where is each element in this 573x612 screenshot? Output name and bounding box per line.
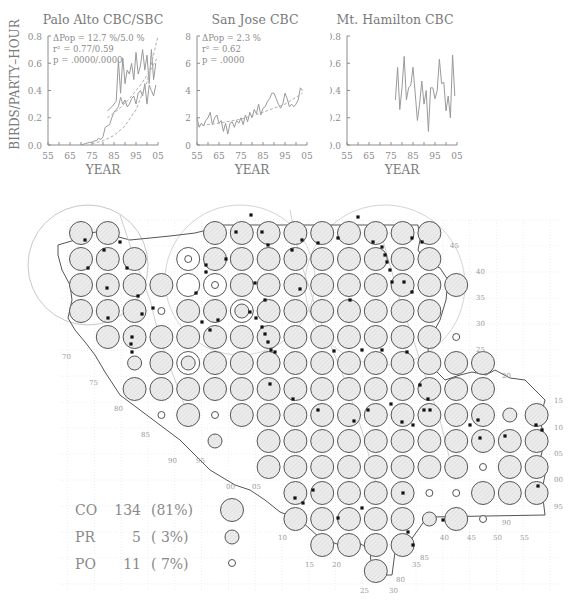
grid-label: 20 [332,561,341,569]
confirmed-circle [204,300,227,323]
confirmed-circle [230,378,253,401]
confirmed-circle [391,534,414,557]
legend-probable-symbol [225,530,239,544]
x-tick-label: 55 [42,151,54,161]
possible-circle [453,334,460,341]
record-dot [194,291,197,294]
confirmed-circle [70,222,93,245]
confirmed-circle [364,482,387,505]
record-dot [410,236,413,239]
legend-code: PR [75,529,113,545]
confirmed-circle [123,378,146,401]
record-dot [402,280,405,283]
possible-circle [480,464,487,471]
possible-circle [480,516,487,523]
record-dot [263,298,266,301]
confirmed-circle [445,404,468,427]
record-dot [86,266,89,269]
distribution-map: 7075808590950005101520253080358540455090… [0,195,573,612]
grid-label: 25 [476,346,485,354]
confirmed-circle [204,222,227,245]
confirmed-circle [123,300,146,323]
confirmed-circle [204,378,227,401]
confirmed-circle [230,248,253,271]
confirmed-circle [311,378,334,401]
grid-label: 70 [62,353,71,361]
grid-label: 80 [114,405,123,413]
confirmed-circle [364,404,387,427]
record-dot [151,306,154,309]
legend-code: CO [75,502,113,518]
confirmed-circle [257,300,280,323]
record-dot [348,298,351,301]
x-tick-label: 95 [279,151,291,161]
record-dot [422,408,425,411]
record-dot [266,243,269,246]
confirmed-circle [284,482,307,505]
chart-san-jose-svg: San Jose CBC0.00.20.40.60.8556575859505Y… [185,0,335,185]
x-tick-label: 05 [301,151,313,161]
confirmed-circle [418,248,441,271]
confirmed-circle [257,248,280,271]
confirmed-circle [338,534,361,557]
y-tick-label: 0.0 [185,141,191,151]
confirmed-circle [96,222,119,245]
confirmed-circle [498,430,521,453]
grid-label: 00 [554,476,563,484]
record-dot [441,518,444,521]
data-line [197,88,303,134]
confirmed-circle [391,352,414,375]
confirmed-circle [418,352,441,375]
grid-label: 10 [554,424,563,432]
record-dot [385,260,388,263]
y-tick-label: 0.8 [185,32,191,42]
record-dot [316,408,319,411]
grid-label: 20 [502,372,511,380]
confirmed-circle [177,378,200,401]
chart-title: San Jose CBC [212,12,299,27]
y-axis-label: BIRDS/PARTY–HOUR [8,18,22,149]
record-dot [224,257,227,260]
possible-circle [158,308,165,315]
grid-label: 75 [89,379,98,387]
confirmed-circle [338,430,361,453]
record-dot [216,318,219,321]
x-axis-label: YEAR [384,163,420,177]
confirmed-circle [311,248,334,271]
probable-circle [181,356,195,370]
record-dot [301,501,304,504]
chart-mt-hamilton-svg: Mt. Hamilton CBC0.00.20.40.60.8556575859… [330,0,480,185]
record-dot [118,240,121,243]
x-tick-label: 55 [191,151,203,161]
confirmed-circle [230,222,253,245]
record-dot [405,350,408,353]
confirmed-circle [445,430,468,453]
confirmed-circle [230,326,253,349]
record-dot [140,312,143,315]
legend-code: PO [75,556,113,572]
y-tick-label: 0.6 [185,59,191,69]
legend-pct: ( 3%) [151,529,211,545]
record-dot [204,263,207,266]
confirmed-circle [150,352,173,375]
grid-label: 30 [476,320,485,328]
confirmed-circle [284,274,307,297]
confirmed-circle [338,404,361,427]
confirmed-circle [338,482,361,505]
confirmed-circle [391,248,414,271]
confirmed-circle [177,404,200,427]
confirmed-circle [284,404,307,427]
confirmed-circle [525,430,548,453]
confirmed-circle [391,300,414,323]
x-tick-label: 75 [385,151,397,161]
possible-circle [185,256,192,263]
confirmed-circle [311,404,334,427]
grid-label: 35 [476,294,485,302]
x-axis-label: YEAR [85,163,121,177]
x-tick-label: 55 [341,151,353,161]
y-tick-label: 0.2 [330,113,341,123]
record-dot [411,543,414,546]
y-tick-label: 0.2 [28,113,42,123]
stat-annotation: r² = 0.62 [202,44,241,54]
confirmed-circle [311,222,334,245]
